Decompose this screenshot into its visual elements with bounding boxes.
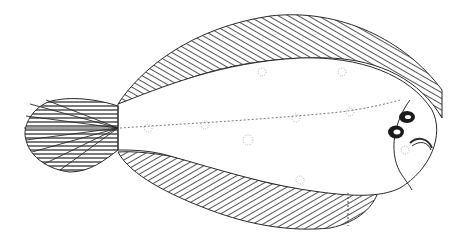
fish-drawing [0, 0, 459, 233]
flatfish-illustration [0, 0, 459, 233]
